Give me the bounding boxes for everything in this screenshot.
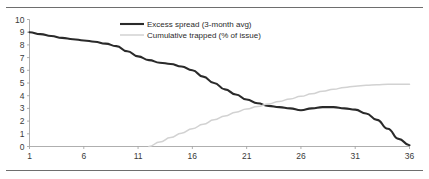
y-axis-tick-label: 5	[20, 78, 25, 88]
y-axis-tick-label: 0	[20, 142, 25, 152]
x-axis-tick-label: 21	[242, 151, 252, 161]
y-axis-tick-label: 6	[20, 65, 25, 75]
y-axis-tick-label: 1	[20, 129, 25, 139]
legend-label-1: Excess spread (3-month avg)	[147, 20, 252, 29]
y-axis-tick-label: 4	[20, 91, 25, 101]
y-axis-tick-label: 7	[20, 53, 25, 63]
x-axis: 16111621263136	[27, 147, 414, 161]
series-lines	[30, 32, 410, 146]
x-axis-tick-label: 26	[296, 151, 306, 161]
chart-legend: Excess spread (3-month avg)Cumulative tr…	[120, 20, 261, 40]
x-axis-tick-label: 6	[81, 151, 86, 161]
y-axis-tick-label: 8	[20, 40, 25, 50]
y-axis-tick-label: 9	[20, 27, 25, 37]
legend-label-2: Cumulative trapped (% of issue)	[147, 31, 261, 40]
series-line-1	[30, 32, 410, 145]
line-chart-svg: 012345678910 16111621263136 Excess sprea…	[0, 14, 429, 164]
y-axis-tick-label: 10	[15, 15, 25, 25]
x-axis-tick-label: 31	[350, 151, 360, 161]
y-axis-tick-label: 3	[20, 103, 25, 113]
x-axis-tick-label: 11	[134, 151, 143, 161]
y-axis: 012345678910	[15, 15, 29, 152]
plot-area: 012345678910 16111621263136 Excess sprea…	[0, 14, 429, 164]
bottom-divider-rule	[6, 170, 423, 171]
x-axis-tick-label: 16	[188, 151, 198, 161]
chart-figure: 012345678910 16111621263136 Excess sprea…	[0, 0, 429, 179]
y-axis-tick-label: 2	[20, 116, 25, 126]
x-axis-tick-label: 1	[27, 151, 32, 161]
top-divider-rule	[6, 7, 423, 8]
x-axis-tick-label: 36	[405, 151, 415, 161]
